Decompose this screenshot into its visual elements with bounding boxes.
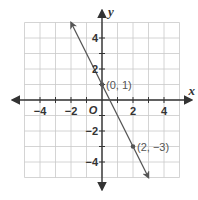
y-tick-label: 4 [92,32,99,44]
x-tick-label: 2 [130,105,136,117]
x-tick-label: 4 [161,105,168,117]
x-tick-label: −4 [34,105,47,117]
y-tick-label: 2 [92,63,98,75]
x-axis-label: x [188,83,196,98]
origin-label: O [89,104,98,116]
data-point [100,82,105,87]
axes [13,11,192,190]
y-tick-label: −2 [85,125,98,137]
data-point-label: (2, −3) [137,141,169,153]
y-tick-label: −4 [85,156,98,168]
x-tick-label: −2 [65,105,78,117]
data-point [131,144,136,149]
labels: −4−224−4−224Oxy(0, 1)(2, −3) [34,4,196,169]
y-axis-label: y [106,4,114,19]
coordinate-plane: −4−224−4−224Oxy(0, 1)(2, −3) [0,0,198,200]
data-point-label: (0, 1) [106,79,132,91]
